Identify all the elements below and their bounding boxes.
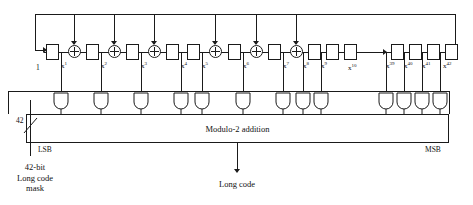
msb-label: MSB	[425, 146, 441, 154]
long-code-output-label: Long code	[197, 180, 277, 189]
long-code-output-arrow-icon	[234, 169, 240, 173]
long-code-output-line	[237, 143, 238, 171]
mask-caption: 42-bit Long code mask	[0, 163, 70, 193]
mask-bus-width-slash-icon	[0, 0, 473, 205]
mask-bus-width-label: 42	[16, 117, 24, 125]
long-code-generator-diagram: x1 x2 x3 x4 x5 x6 x7 x8 x9 x10 x39 x40 x…	[0, 0, 473, 205]
lsb-label: LSB	[38, 146, 52, 154]
mask-caption-line-2: Long code	[0, 174, 70, 183]
mask-caption-line-3: mask	[0, 184, 70, 193]
mask-caption-line-1: 42-bit	[0, 163, 70, 172]
